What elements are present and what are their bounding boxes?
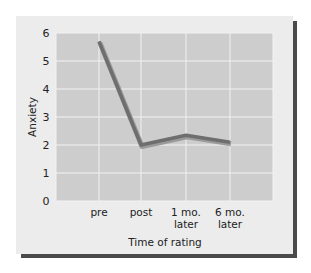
x-axis-label: Time of rating xyxy=(127,236,202,248)
y-tick-label: 3 xyxy=(43,111,50,124)
x-axis-ticks: prepost1 mo.later6 mo.later xyxy=(90,206,245,230)
x-tick-label: 6 mo.later xyxy=(215,206,245,230)
y-tick-label: 0 xyxy=(43,195,50,208)
y-tick-label: 6 xyxy=(43,27,50,40)
y-tick-label: 1 xyxy=(43,167,50,180)
x-tick-label: pre xyxy=(90,206,107,218)
y-tick-label: 4 xyxy=(43,83,50,96)
y-tick-label: 2 xyxy=(43,139,50,152)
x-tick-label: 1 mo.later xyxy=(171,206,201,230)
y-axis-ticks: 0123456 xyxy=(43,27,50,208)
y-axis-label: Anxiety xyxy=(26,97,38,137)
line-chart: 0123456 prepost1 mo.later6 mo.later Anxi… xyxy=(0,0,311,273)
x-tick-label: post xyxy=(130,206,153,218)
y-tick-label: 5 xyxy=(43,55,50,68)
